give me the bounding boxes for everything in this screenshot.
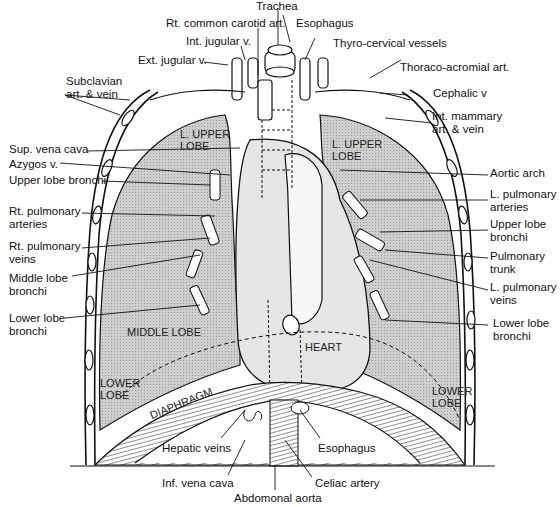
label-middle-lobe: MIDDLE LOBE (127, 326, 201, 338)
label-azygos: Azygos v. (9, 158, 58, 171)
label-right-upper-lobe: L. UPPERLOBE (180, 128, 230, 152)
label-sup-vena-cava: Sup. vena cava (9, 143, 88, 156)
label-celiac-artery: Celiac artery (315, 477, 380, 490)
label-pulmonary-trunk: Pulmonarytrunk (490, 250, 545, 276)
label-heart: HEART (305, 341, 342, 353)
label-rt-pulmonary-veins: Rt. pulmonaryveins (9, 240, 81, 266)
label-l-pulmonary-veins: L. pulmonaryveins (490, 281, 556, 307)
label-trachea: Trachea (256, 0, 298, 13)
label-abdominal-aorta: Abdomonal aorta (234, 492, 322, 505)
label-lower-lobe-bronchi-left: Lower lobebronchi (493, 317, 549, 343)
label-upper-lobe-bronchi-right: Upper lobe bronchi (9, 174, 106, 187)
label-lower-lobe-bronchi-right: Lower lobebronchi (9, 312, 65, 338)
label-thoraco-acromial: Thoraco-acromial art. (400, 61, 509, 74)
label-esophagus-top: Esophagus (296, 17, 354, 30)
label-esophagus-bottom: Esophagus (318, 442, 376, 455)
label-subclavian: Subclavianart. & vein (66, 75, 122, 101)
label-hepatic-veins: Hepatic veins (162, 442, 231, 455)
label-aortic-arch: Aortic arch (490, 167, 545, 180)
label-l-pulmonary-arteries: L. pulmonaryarteries (490, 188, 556, 214)
label-ext-jugular: Ext. jugular v. (138, 54, 207, 67)
label-inf-vena-cava: Inf. vena cava (162, 477, 234, 490)
label-cephalic: Cephalic v (433, 87, 487, 100)
label-int-mammary: Int. mammaryart. & vein (432, 110, 502, 136)
label-left-lower-lobe: LOWERLOBE (432, 385, 472, 409)
label-rt-pulmonary-arteries: Rt. pulmonaryarteries (9, 205, 81, 231)
label-upper-lobe-bronchi-left: Upper lobebronchi (490, 218, 546, 244)
label-middle-lobe-bronchi: Middle lobebronchi (9, 272, 68, 298)
label-left-upper-lobe: L. UPPERLOBE (332, 138, 382, 162)
label-thyro-cervical: Thyro-cervical vessels (333, 37, 447, 50)
label-int-jugular: Int. jugular v. (186, 35, 251, 48)
label-rt-common-carotid: Rt. common carotid art. (166, 17, 286, 30)
label-right-lower-lobe: LOWERLOBE (100, 377, 140, 401)
